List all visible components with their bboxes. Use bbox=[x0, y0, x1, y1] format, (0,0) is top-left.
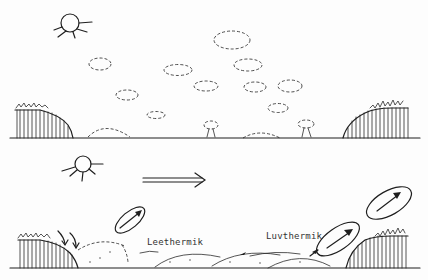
sun-icon bbox=[54, 14, 92, 38]
sun-icon bbox=[62, 156, 103, 181]
top-panel bbox=[10, 14, 420, 138]
left-hill bbox=[15, 103, 73, 138]
thermal-bubbles bbox=[204, 120, 314, 137]
lee-dome bbox=[78, 242, 125, 250]
left-hill bbox=[18, 233, 78, 268]
ground-bump bbox=[243, 133, 280, 138]
cumulus-clouds bbox=[89, 31, 302, 119]
bottom-panel bbox=[10, 156, 420, 268]
lee-thermal-label: Leethermik bbox=[147, 237, 203, 247]
lee-thermal-bubble bbox=[111, 202, 149, 237]
double-arrow-right-icon bbox=[143, 173, 205, 187]
thermal-diagram: Leethermik Luvthermik bbox=[0, 0, 428, 280]
windward-thermal-bubble-upper bbox=[361, 180, 416, 226]
downdraft-arrows bbox=[58, 231, 79, 248]
right-hill bbox=[346, 228, 408, 268]
right-hill bbox=[343, 100, 408, 138]
ground-bump bbox=[88, 129, 130, 138]
windward-thermal-label: Luvthermik bbox=[266, 231, 322, 241]
diagram-canvas bbox=[0, 0, 428, 280]
